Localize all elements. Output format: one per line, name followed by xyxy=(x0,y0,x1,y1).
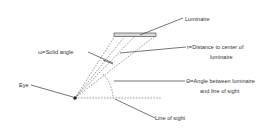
ray-center xyxy=(75,36,135,98)
luminance-geometry-diagram: Luminaire ω=Solid angle r=Distance to ce… xyxy=(0,0,278,132)
solid-angle-leader xyxy=(88,52,113,63)
luminaire-label: Luminaire xyxy=(185,16,210,22)
ray-left-edge xyxy=(75,36,115,98)
eye-label: Eye xyxy=(19,82,29,88)
solid-angle-label: ω=Solid angle xyxy=(38,49,73,55)
distance-label-line1: r=Distance to center of xyxy=(187,44,244,50)
ray-inner-left xyxy=(75,36,125,98)
luminaire-bar xyxy=(114,33,156,37)
angle-label-line2: and line of sight xyxy=(200,88,240,94)
eye-leader xyxy=(31,85,73,97)
line-of-sight-leader xyxy=(115,99,155,118)
ray-right-edge xyxy=(75,36,155,98)
line-of-sight-label: Line of sight xyxy=(155,115,186,121)
eye-point xyxy=(73,96,77,100)
angle-label-line1: Θ=Angle between luminaire xyxy=(186,78,255,84)
distance-leader xyxy=(120,47,186,53)
luminaire-leader xyxy=(140,18,183,35)
angle-arc xyxy=(103,74,113,98)
distance-label-line2: luminaire xyxy=(210,54,233,60)
